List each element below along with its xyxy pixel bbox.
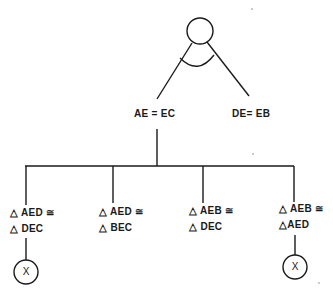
proof-tree-diagram [0, 0, 333, 291]
edge-root-to-ae-ec [157, 43, 192, 99]
terminal-x-4: X [285, 261, 305, 273]
scan-speck [252, 153, 254, 155]
node-ae-ec-label: AE = EC [134, 108, 175, 120]
edge-root-to-de-eb [207, 42, 249, 96]
child-3-line2: △ DEC [189, 221, 222, 233]
child-3-line1: △ AEB ≅ [189, 205, 233, 217]
child-4-line1: △ AEB ≅ [279, 203, 323, 215]
root-node-circle [187, 18, 213, 44]
child-2-line1: △ AED ≅ [99, 206, 143, 218]
child-2-line2: △ BEC [99, 222, 132, 234]
and-arc [180, 55, 214, 66]
child-4-line2: △AED [279, 219, 309, 231]
node-de-eb-label: DE= EB [232, 108, 270, 120]
scan-speck [251, 8, 253, 10]
child-1-line1: △ AED ≅ [10, 207, 54, 219]
scan-speck [318, 282, 320, 284]
child-1-line2: △ DEC [10, 223, 43, 235]
terminal-x-1: X [16, 266, 36, 278]
